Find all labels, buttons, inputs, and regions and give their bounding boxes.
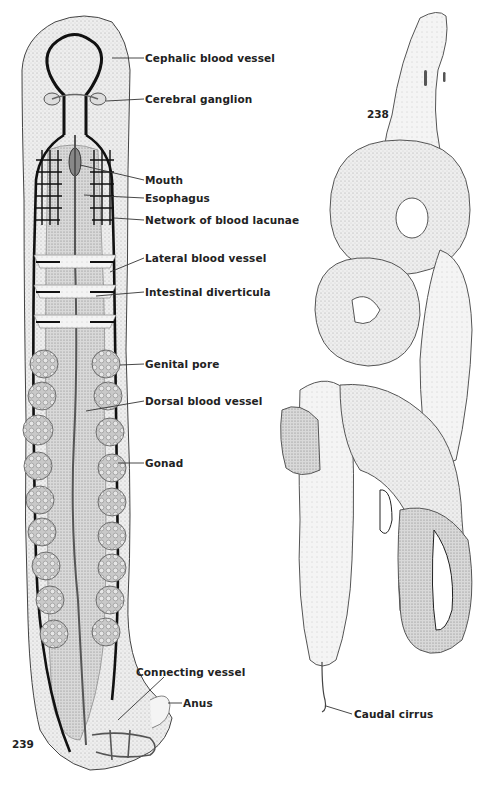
label-intestinal-diverticula: Intestinal diverticula: [145, 286, 271, 298]
label-caudal-cirrus: Caudal cirrus: [354, 708, 433, 720]
illustration-plate: Cephalic blood vessel Cerebral ganglion …: [0, 0, 504, 787]
figure-number-239: 239: [12, 738, 34, 750]
label-genital-pore: Genital pore: [145, 358, 219, 370]
label-dorsal-blood-vessel: Dorsal blood vessel: [145, 395, 263, 407]
label-network-of-blood-lacunae: Network of blood lacunae: [145, 214, 299, 226]
label-cephalic-blood-vessel: Cephalic blood vessel: [145, 52, 275, 64]
figure-number-238: 238: [367, 108, 389, 120]
caudal-cirrus: [322, 662, 326, 712]
label-cerebral-ganglion: Cerebral ganglion: [145, 93, 252, 105]
label-mouth: Mouth: [145, 174, 183, 186]
label-anus: Anus: [183, 697, 213, 709]
label-esophagus: Esophagus: [145, 192, 210, 204]
label-connecting-vessel: Connecting vessel: [136, 666, 245, 678]
label-gonad: Gonad: [145, 457, 183, 469]
label-lateral-blood-vessel: Lateral blood vessel: [145, 252, 266, 264]
figure-239-drawing: [0, 0, 504, 787]
